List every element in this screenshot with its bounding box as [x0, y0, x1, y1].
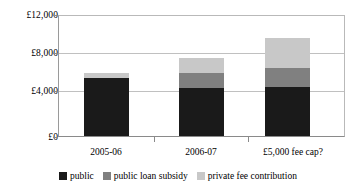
- legend-swatch-icon-public: [59, 172, 67, 180]
- bar-segment-public: [179, 88, 224, 136]
- bar-5000-fee-cap[interactable]: [265, 38, 310, 136]
- y-axis-tick-label-0: £0: [6, 132, 58, 142]
- bar-segment-private-fee-contribution: [179, 58, 224, 73]
- plot-area: [58, 15, 345, 137]
- legend-item-public[interactable]: public: [59, 170, 94, 182]
- legend-swatch-icon-private-fee-contribution: [197, 172, 205, 180]
- chart-legend: public public loan subsidy private fee c…: [0, 170, 356, 182]
- bar-segment-public-loan-subsidy: [179, 73, 224, 88]
- legend-swatch-icon-public-loan-subsidy: [103, 172, 111, 180]
- legend-item-private-fee-contribution[interactable]: private fee contribution: [197, 170, 297, 182]
- y-axis-tick-label-8000: £8,000: [6, 48, 58, 58]
- y-axis: £12,000 £8,000 £4,000 £0: [0, 0, 58, 189]
- legend-item-public-loan-subsidy[interactable]: public loan subsidy: [103, 170, 188, 182]
- x-axis-label-2006-07: 2006-07: [185, 146, 217, 158]
- legend-label-public: public: [70, 170, 94, 182]
- legend-label-private-fee-contribution: private fee contribution: [208, 170, 297, 182]
- bar-segment-private-fee-contribution: [265, 38, 310, 68]
- x-axis-label-5000-fee-cap: £5,000 fee cap?: [263, 146, 323, 158]
- bar-segment-public: [265, 87, 310, 136]
- legend-label-public-loan-subsidy: public loan subsidy: [114, 170, 188, 182]
- x-axis-tick-mark-1: [154, 137, 155, 142]
- y-axis-tick-label-4000: £4,000: [6, 86, 58, 96]
- bar-2005-06[interactable]: [84, 73, 129, 136]
- bar-segment-public-loan-subsidy: [265, 68, 310, 87]
- y-axis-tick-label-12000: £12,000: [6, 10, 58, 20]
- stacked-bar-chart: £12,000 £8,000 £4,000 £0: [0, 0, 356, 189]
- bar-2006-07[interactable]: [179, 58, 224, 136]
- x-axis-label-2005-06: 2005-06: [90, 146, 122, 158]
- y-axis-tick-mark-0: [53, 137, 58, 138]
- bar-segment-public: [84, 78, 129, 136]
- x-axis-tick-mark-2: [248, 137, 249, 142]
